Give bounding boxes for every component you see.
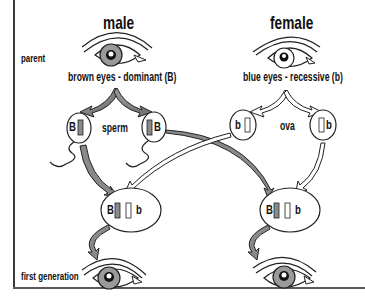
male-trait-label: brown eyes - dominant (B): [68, 70, 176, 84]
arrow-offspring1-to-eye: [88, 225, 110, 260]
inheritance-diagram-art: [0, 0, 365, 299]
ova-label: ova: [280, 119, 295, 133]
offspring1-dominant-allele: B: [107, 203, 114, 217]
offspring2-dominant-allele: B: [266, 203, 273, 217]
arrow-offspring2-to-eye: [248, 225, 270, 260]
arrow-ovum2-to-offspring2: [295, 143, 325, 196]
offspring2-recessive-allele: b: [295, 203, 301, 217]
column-title-female: female: [270, 12, 313, 34]
row-label-first-generation: first generation: [21, 270, 79, 282]
sperm-label: sperm: [102, 121, 128, 135]
row-label-parent: parent: [21, 52, 45, 64]
female-split-arrows: [250, 90, 322, 117]
female-parent-eye-icon: [253, 37, 320, 68]
sperm2-allele: B: [154, 120, 161, 134]
arrow-sperm1-to-offspring1: [80, 145, 118, 196]
offspring1-eye-icon: [82, 259, 146, 289]
male-parent-eye-icon: [82, 33, 152, 66]
female-trait-label: blue eyes - recessive (b): [243, 70, 343, 84]
ovum1-allele: b: [235, 118, 241, 132]
ovum2-allele: b: [326, 118, 332, 132]
ovum-cell-1-icon: [230, 110, 256, 140]
offspring1-recessive-allele: b: [136, 203, 142, 217]
sperm1-allele: B: [69, 120, 76, 134]
ovum-cell-2-icon: [310, 110, 336, 140]
male-split-arrows: [80, 88, 152, 117]
offspring2-eye-icon: [253, 257, 316, 288]
column-title-male: male: [103, 12, 134, 34]
